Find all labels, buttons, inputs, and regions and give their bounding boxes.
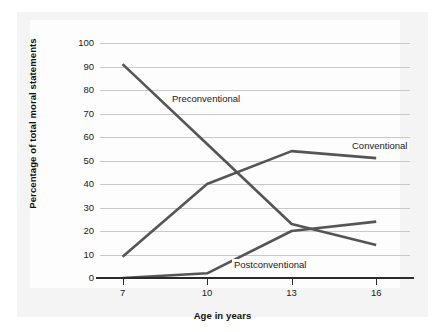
x-tick-mark xyxy=(292,279,293,285)
line-chart-figure: Percentage of total moral statements 100… xyxy=(0,0,445,332)
x-tick-mark xyxy=(207,279,208,285)
x-tick-label: 7 xyxy=(103,287,143,298)
x-tick-label: 10 xyxy=(187,287,227,298)
x-tick-mark xyxy=(123,279,124,285)
x-tick-label: 13 xyxy=(272,287,312,298)
x-axis-label: Age in years xyxy=(0,310,445,321)
series-label-preconventional: Preconventional xyxy=(170,93,242,104)
series-label-conventional: Conventional xyxy=(350,140,409,151)
x-axis-line xyxy=(96,277,414,279)
series-line-conventional xyxy=(123,151,377,257)
series-lines xyxy=(0,0,445,332)
x-tick-mark xyxy=(376,279,377,285)
x-tick-label: 16 xyxy=(356,287,396,298)
series-label-postconventional: Postconventional xyxy=(232,259,308,270)
